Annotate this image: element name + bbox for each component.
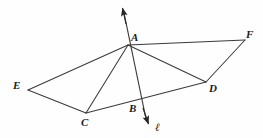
segment-D-F	[206, 40, 245, 82]
segment-A-D	[128, 45, 206, 82]
geometry-canvas	[0, 0, 263, 138]
line-label-ell: ℓ	[155, 122, 160, 133]
segment-C-D	[86, 82, 206, 113]
segment-A-E	[28, 45, 128, 90]
segment-A-F	[128, 40, 245, 45]
vertex-label-e: E	[13, 80, 20, 91]
line-ell-arrow-up	[123, 8, 127, 24]
segment-A-C	[86, 45, 128, 113]
vertex-label-c: C	[81, 117, 88, 128]
line-ell-arrow-down	[143, 108, 149, 124]
vertex-label-d: D	[209, 83, 217, 94]
geometry-figure: A B C D E F ℓ	[0, 0, 263, 138]
vertex-label-f: F	[246, 29, 253, 40]
vertex-label-a: A	[131, 32, 138, 43]
segment-E-C	[28, 90, 86, 113]
vertex-label-b: B	[129, 103, 136, 114]
